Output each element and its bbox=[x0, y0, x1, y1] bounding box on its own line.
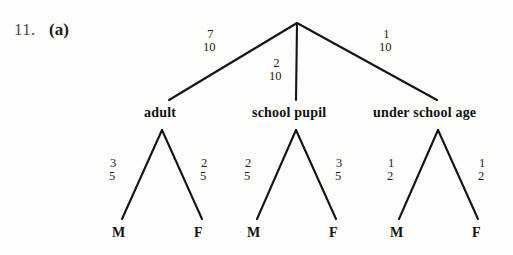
leaf-label-adult-female: F bbox=[194, 225, 203, 241]
probability-school-pupil-male-numerator: 2 bbox=[243, 157, 251, 170]
probability-adult-male-denominator: 5 bbox=[108, 170, 116, 183]
probability-adult-male-numerator: 3 bbox=[108, 157, 116, 170]
probability-school-pupil-male-denominator: 5 bbox=[243, 170, 251, 183]
leaf-label-school-pupil-male: M bbox=[247, 225, 260, 241]
leaf-label-school-pupil-female: F bbox=[329, 225, 338, 241]
probability-school-pupil-female-numerator: 3 bbox=[334, 157, 342, 170]
leaf-label-adult-male: M bbox=[112, 225, 125, 241]
branch-adult-male bbox=[122, 130, 162, 219]
diagram-page: · · · · · · 11. (a) 7 10 2 10 bbox=[0, 0, 513, 255]
probability-under-school-age-female: 1 2 bbox=[477, 157, 485, 183]
probability-school-pupil-male: 2 5 bbox=[243, 157, 251, 183]
branch-school-pupil-male bbox=[257, 130, 296, 219]
branch-root-under-school-age bbox=[297, 23, 437, 100]
branch-under-school-age-male bbox=[399, 130, 438, 219]
probability-under-school-age-denominator: 10 bbox=[379, 41, 392, 54]
probability-adult-numerator: 7 bbox=[203, 28, 216, 41]
branch-root-school-pupil bbox=[296, 24, 297, 100]
branch-adult-female bbox=[162, 130, 202, 219]
probability-adult: 7 10 bbox=[203, 28, 216, 54]
probability-adult-female-denominator: 5 bbox=[199, 170, 207, 183]
probability-adult-female-numerator: 2 bbox=[199, 157, 207, 170]
branch-school-pupil-female bbox=[296, 130, 336, 219]
probability-under-school-age-female-denominator: 2 bbox=[477, 170, 485, 183]
probability-school-pupil-female: 3 5 bbox=[334, 157, 342, 183]
probability-under-school-age-male: 1 2 bbox=[386, 157, 394, 183]
node-label-adult: adult bbox=[144, 105, 176, 121]
leaf-label-under-school-age-female: F bbox=[472, 225, 481, 241]
tree-branch-lines bbox=[0, 0, 513, 255]
probability-under-school-age-male-denominator: 2 bbox=[386, 170, 394, 183]
probability-adult-denominator: 10 bbox=[203, 41, 216, 54]
probability-under-school-age-female-numerator: 1 bbox=[477, 157, 485, 170]
probability-under-school-age-numerator: 1 bbox=[379, 28, 392, 41]
probability-school-pupil-female-denominator: 5 bbox=[334, 170, 342, 183]
leaf-label-under-school-age-male: M bbox=[390, 225, 403, 241]
probability-under-school-age: 1 10 bbox=[379, 28, 392, 54]
probability-school-pupil-denominator: 10 bbox=[269, 70, 282, 83]
probability-school-pupil-numerator: 2 bbox=[269, 57, 282, 70]
branch-under-school-age-female bbox=[438, 130, 478, 219]
probability-under-school-age-male-numerator: 1 bbox=[386, 157, 394, 170]
probability-school-pupil: 2 10 bbox=[269, 57, 282, 83]
probability-adult-male: 3 5 bbox=[108, 157, 116, 183]
node-label-under-school-age: under school age bbox=[373, 105, 476, 121]
node-label-school-pupil: school pupil bbox=[252, 105, 326, 121]
probability-adult-female: 2 5 bbox=[199, 157, 207, 183]
